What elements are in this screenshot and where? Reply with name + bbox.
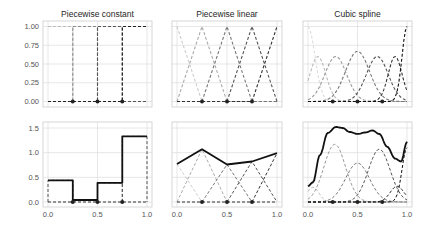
y-tick-label: 0.5 [29,173,39,182]
y-tick-label: 1.0 [29,148,39,157]
knot-marker [120,100,124,104]
knot-marker [331,200,335,204]
panel-title: Piecewise constant [61,9,134,19]
panel-title: Cubic spline [334,9,381,19]
x-tick-label: 0.0 [43,210,53,219]
y-tick-label: 0.25 [24,78,39,87]
panel-top-right: Cubic spline [303,9,412,107]
panel-top-left: Piecewise constant0.000.250.500.751.00 [24,9,152,107]
knot-marker [200,200,204,204]
knot-marker [71,100,75,104]
knot-marker [96,200,100,204]
knot-marker [250,100,254,104]
y-tick-label: 0.0 [29,198,39,207]
y-tick-label: 1.5 [29,124,39,133]
x-tick-label: 0.5 [352,210,362,219]
knot-marker [120,200,124,204]
panel-bottom-right: 0.00.51.0 [303,122,412,219]
knot-marker [356,200,360,204]
knot-marker [380,200,384,204]
knot-marker [200,100,204,104]
x-tick-label: 0.5 [92,210,102,219]
panel-title: Piecewise linear [196,9,258,19]
knot-marker [225,100,229,104]
knot-marker [225,200,229,204]
x-tick-label: 0.5 [222,210,232,219]
knot-marker [96,100,100,104]
x-tick-label: 1.0 [402,210,412,219]
y-tick-label: 0.50 [24,60,39,69]
panel-bottom-middle: 0.00.51.0 [172,122,282,219]
x-tick-label: 1.0 [142,210,152,219]
knot-marker [356,100,360,104]
y-tick-label: 0.00 [24,97,39,106]
y-tick-label: 0.75 [24,41,39,50]
knot-marker [331,100,335,104]
knot-marker [250,200,254,204]
knot-marker [380,100,384,104]
panel-top-middle: Piecewise linear [172,9,282,107]
panel-bottom-left: 0.00.51.00.00.51.01.5 [29,122,153,219]
x-tick-label: 0.0 [172,210,182,219]
y-tick-label: 1.00 [24,22,39,31]
x-tick-label: 1.0 [272,210,282,219]
spline-basis-figure: Piecewise constant0.000.250.500.751.00Pi… [0,0,438,229]
x-tick-label: 0.0 [303,210,313,219]
knot-marker [71,200,75,204]
